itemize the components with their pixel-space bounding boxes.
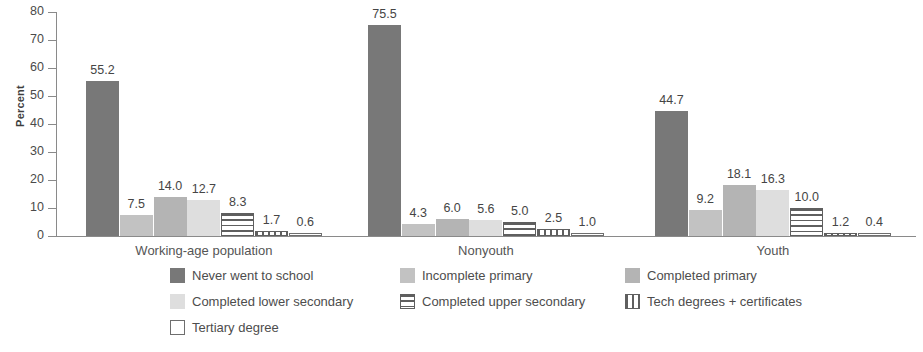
bar [402,224,435,236]
legend-item[interactable]: Completed lower secondary [170,294,353,309]
x-axis-group-label: Working-age population [94,243,314,258]
bar [723,185,756,236]
legend-swatch-icon [170,294,185,309]
bar-value-label: 16.3 [746,173,799,186]
legend-label: Tertiary degree [192,321,279,334]
legend-swatch-icon [400,268,415,283]
bar-value-label: 0.6 [279,216,332,229]
legend-swatch-icon [170,268,185,283]
x-axis-group-label: Nonyouth [376,243,596,258]
bar [368,25,401,236]
bar [86,81,119,236]
x-axis-group-label: Youth [663,243,883,258]
legend-item[interactable]: Incomplete primary [400,268,533,283]
legend-item[interactable]: Tertiary degree [170,320,279,335]
legend-item[interactable]: Completed upper secondary [400,294,585,309]
bar-value-label: 44.7 [645,94,698,107]
bar [469,220,502,236]
legend-swatch-icon [625,268,640,283]
chart-legend: Never went to schoolIncomplete primaryCo… [0,268,923,352]
bar-value-label: 12.7 [177,183,230,196]
bar [436,219,469,236]
bar [120,215,153,236]
bar-value-label: 8.3 [211,196,264,209]
legend-item[interactable]: Tech degrees + certificates [625,294,802,309]
bar-value-label: 75.5 [358,8,411,21]
legend-item[interactable]: Completed primary [625,268,757,283]
bar [655,111,688,236]
legend-item[interactable]: Never went to school [170,268,313,283]
legend-label: Completed primary [647,269,757,282]
legend-swatch-icon [625,294,640,309]
legend-label: Tech degrees + certificates [647,295,802,308]
bar [289,233,322,236]
legend-label: Completed lower secondary [192,295,353,308]
bar [537,229,570,236]
legend-swatch-icon [170,320,185,335]
bar [858,233,891,236]
bar-value-label: 1.0 [561,216,614,229]
legend-label: Completed upper secondary [422,295,585,308]
bar-value-label: 10.0 [780,191,833,204]
bar [689,210,722,236]
plot-area: 55.27.514.012.78.31.70.675.54.36.05.65.0… [0,0,923,237]
bar-value-label: 0.4 [848,216,901,229]
legend-label: Never went to school [192,269,313,282]
bar-value-label: 55.2 [76,64,129,77]
legend-swatch-icon [400,294,415,309]
bar [154,197,187,236]
bar [571,233,604,236]
bar-chart: Percent 01020304050607080 55.27.514.012.… [0,0,923,352]
legend-label: Incomplete primary [422,269,533,282]
bar [255,231,288,236]
bar [824,233,857,236]
